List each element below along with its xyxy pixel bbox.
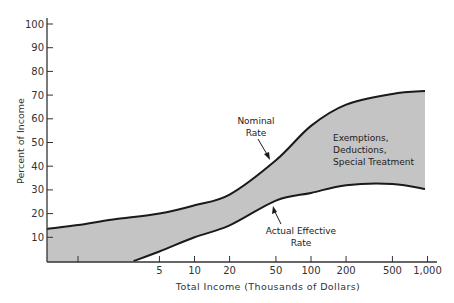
tax-rate-chart: 102030405060708090100 51020501002005001,… (0, 0, 454, 303)
region-label-line1: Exemptions, (333, 133, 389, 143)
x-axis-label: Total Income (Thousands of Dollars) (175, 281, 360, 292)
region-label-line3: Special Treatment (333, 157, 415, 167)
x-tick-label: 1,000 (413, 265, 442, 276)
exemptions-band (47, 91, 425, 262)
y-tick-label: 100 (25, 19, 44, 30)
y-tick-label: 50 (31, 137, 44, 148)
nominal-arrowhead-icon (264, 152, 270, 160)
y-ticks: 102030405060708090100 (25, 19, 53, 243)
x-tick-label: 50 (270, 265, 283, 276)
x-tick-label: 10 (188, 265, 201, 276)
y-tick-label: 90 (31, 42, 44, 53)
x-tick-label: 5 (156, 265, 162, 276)
y-tick-label: 20 (31, 208, 44, 219)
y-tick-label: 60 (31, 113, 44, 124)
x-tick-label: 20 (223, 265, 236, 276)
effective-arrow-icon (274, 210, 281, 224)
y-tick-label: 30 (31, 184, 44, 195)
x-tick-label: 200 (337, 265, 356, 276)
nominal-label-line1: Nominal (237, 116, 274, 126)
y-tick-label: 80 (31, 66, 44, 77)
y-tick-label: 40 (31, 161, 44, 172)
region-label-line2: Deductions, (333, 145, 387, 155)
y-tick-label: 10 (31, 232, 44, 243)
effective-annotation: Actual Effective Rate (266, 206, 337, 248)
effective-label-line2: Rate (291, 238, 312, 248)
y-axis-label: Percent of Income (15, 98, 26, 184)
x-tick-label: 100 (301, 265, 320, 276)
shaded-region (47, 91, 425, 262)
effective-label-line1: Actual Effective (266, 226, 337, 236)
x-tick-label: 500 (383, 265, 402, 276)
nominal-annotation: Nominal Rate (237, 116, 274, 160)
y-tick-label: 70 (31, 90, 44, 101)
nominal-label-line2: Rate (246, 128, 267, 138)
